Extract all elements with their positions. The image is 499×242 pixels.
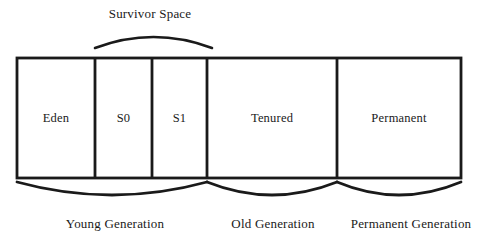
segment-label-permanent: Permanent: [371, 111, 426, 126]
permanent-generation-brace: [337, 182, 461, 195]
segment-label-tenured: Tenured: [251, 111, 293, 126]
brace-label-old-generation: Old Generation: [231, 216, 314, 232]
segment-label-s1: S1: [173, 111, 187, 126]
brace-label-young-generation: Young Generation: [66, 216, 164, 232]
segment-label-eden: Eden: [43, 111, 69, 126]
old-generation-brace: [207, 182, 337, 195]
survivor-space-title: Survivor Space: [109, 6, 192, 22]
segment-label-s0: S0: [117, 111, 131, 126]
brace-label-permanent-generation: Permanent Generation: [351, 216, 472, 232]
jvm-memory-diagram: Survivor Space Eden S0 S1 Tenured Perman…: [0, 0, 499, 242]
young-generation-brace: [17, 182, 207, 195]
survivor-space-arc-brace: [95, 37, 212, 48]
